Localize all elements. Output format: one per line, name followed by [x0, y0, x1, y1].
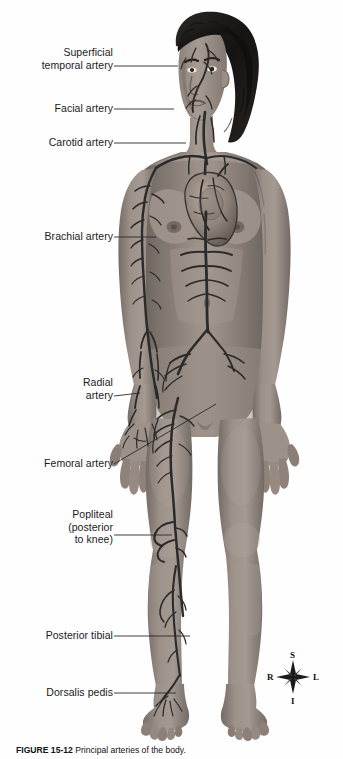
figure-caption: FIGURE 15-12 Principal arteries of the b…: [16, 745, 336, 759]
figure-caption-number: FIGURE 15-12: [16, 745, 73, 755]
orientation-compass: [276, 660, 310, 694]
compass-label-superior: S: [290, 650, 295, 660]
compass-label-inferior: I: [291, 696, 295, 706]
label-popliteal-artery: Popliteal (posterior to knee): [33, 508, 113, 546]
anatomy-figure: Superficial temporal artery Facial arter…: [0, 0, 343, 759]
label-superficial-temporal-artery: Superficial temporal artery: [18, 46, 113, 71]
label-brachial-artery: Brachial artery: [28, 230, 113, 243]
label-radial-artery: Radial artery: [43, 376, 113, 401]
label-carotid-artery: Carotid artery: [33, 136, 113, 149]
label-dorsalis-pedis-artery: Dorsalis pedis: [30, 686, 113, 699]
label-facial-artery: Facial artery: [38, 102, 113, 115]
label-femoral-artery: Femoral artery: [28, 457, 113, 470]
label-posterior-tibial-artery: Posterior tibial: [28, 629, 113, 642]
figure-caption-text: Principal arteries of the body.: [75, 745, 186, 755]
compass-label-right: R: [267, 672, 274, 682]
compass-label-left: L: [313, 672, 319, 682]
